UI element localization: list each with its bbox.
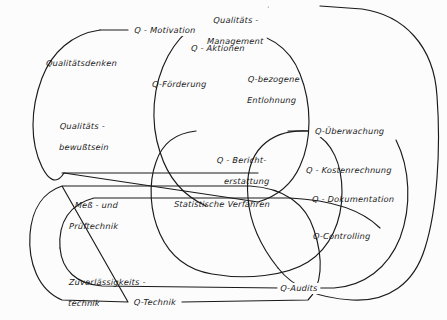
- set-label-q-ueberwachung: Q-Überwachung: [312, 126, 388, 137]
- member-label-mess-und-pruef: Meß - und Prüftechnik: [57, 189, 120, 242]
- member-label-qualitaetsbewusstsein: Qualitäts - bewußtsein: [47, 110, 110, 163]
- member-label-q-controlling: Q-Controlling: [313, 231, 371, 242]
- member-label-q-berichterstattung: Q - Bericht- erstattung: [204, 144, 271, 197]
- member-label-q-bezogene-entlohnung: Q-bezogene Entlohnung: [235, 63, 300, 116]
- set-label-q-motivation: Q - Motivation: [131, 25, 199, 36]
- member-label-q-foerderung: Q-Förderung: [152, 79, 207, 90]
- set-label-q-audits: Q-Audits: [277, 283, 321, 294]
- member-label-q-dokumentation: Q - Dokumentation: [312, 194, 395, 205]
- member-label-q-aktionen: Q - Aktionen: [191, 43, 245, 54]
- member-label-zuverlaessigkeitstechnik: Zuverlässigkeits - technik: [56, 266, 146, 319]
- member-label-statistische-verfahren: Statistische Verfahren: [174, 199, 270, 210]
- member-label-q-kostenrechnung: Q - Kostenrechnung: [306, 165, 392, 176]
- member-label-qualitaetsdenken: Qualitätsdenken: [46, 58, 117, 69]
- diagram-canvas: Qualitäts - Management Q - Motivation Q-…: [0, 0, 447, 320]
